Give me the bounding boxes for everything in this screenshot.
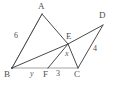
segment-label-fc: 3 [56,70,60,78]
vertex-label-c: C [74,70,80,79]
vertex-label-b: B [4,70,10,79]
segment-a-b [12,14,42,68]
vertex-label-a: A [38,2,45,11]
segment-label-bf: y [30,70,34,78]
geometry-diagram: A B C D E F 6 y x 3 4 [0,0,116,85]
vertex-label-f: F [43,70,48,79]
segment-label-ab: 6 [14,32,18,40]
segment-b-e [12,44,68,68]
segment-label-cd: 4 [93,45,97,53]
segment-label-ef: x [65,50,69,58]
vertex-label-d: D [99,11,106,20]
segment-a-e [42,14,68,44]
vertex-dot-b [11,67,13,69]
segment-e-c [68,44,78,68]
vertex-label-e: E [66,32,72,41]
